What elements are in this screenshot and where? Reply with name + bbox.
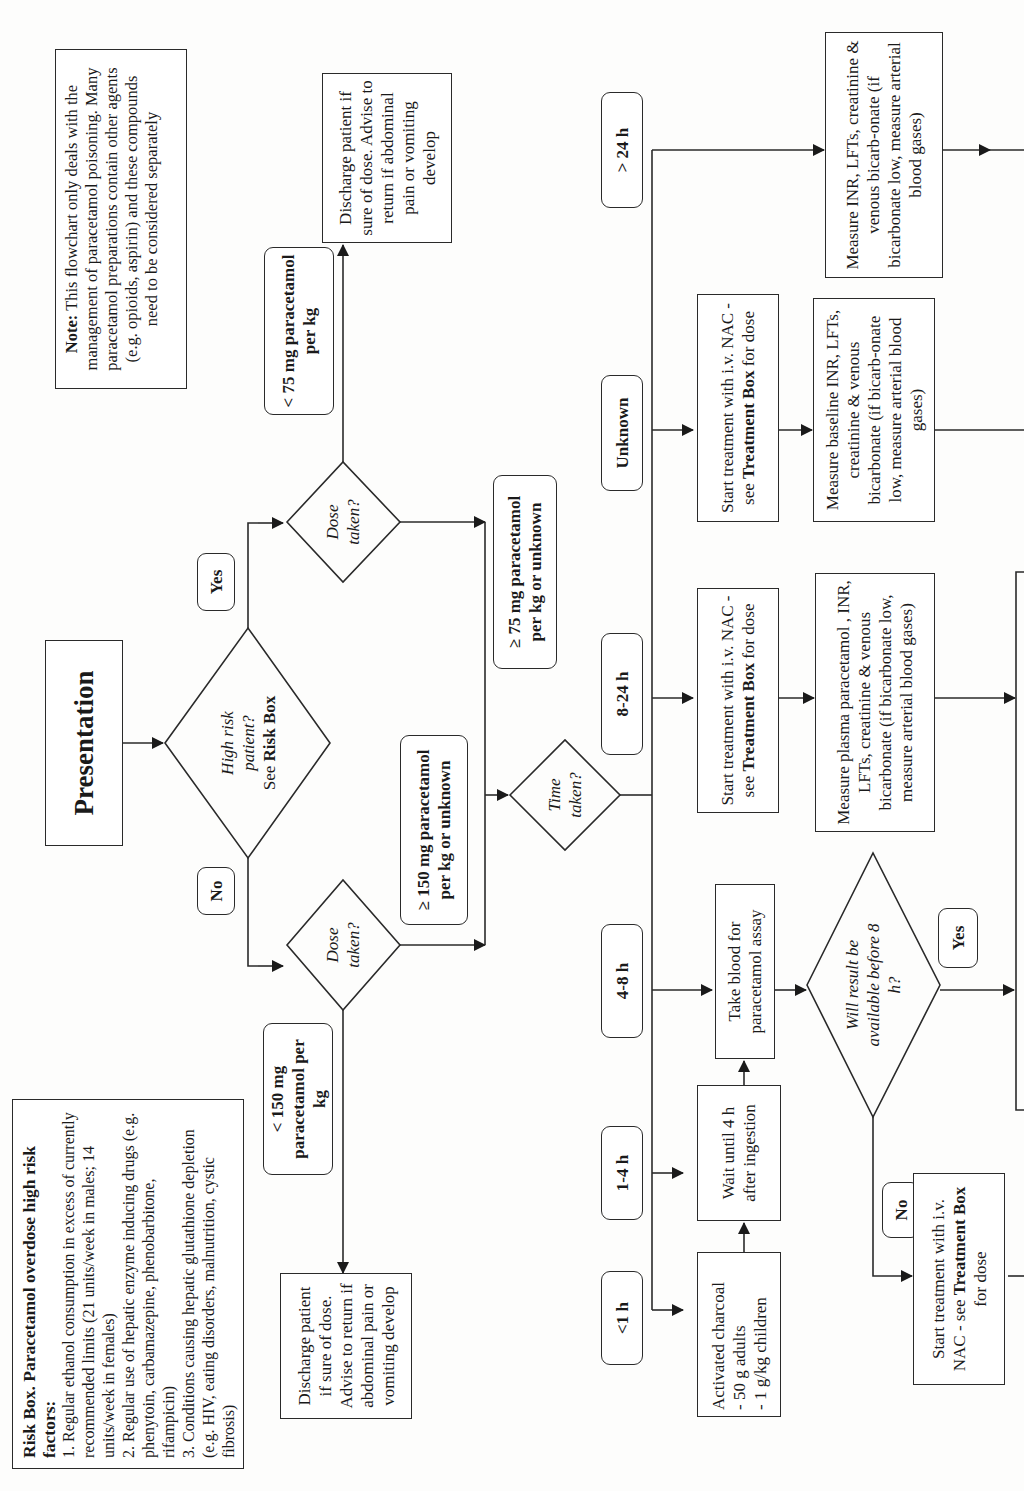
high-risk-line2: patient? bbox=[238, 715, 259, 771]
dose-taken-question-no-branch: Dose taken? bbox=[318, 905, 368, 985]
presentation-label: Presentation bbox=[74, 671, 95, 816]
note-label: Note: bbox=[62, 315, 81, 353]
dose-taken-question-yes-branch: Dose taken? bbox=[318, 482, 368, 562]
high-risk-line1: High risk bbox=[217, 711, 238, 775]
take-blood-box: Take blood for paracetamol assay bbox=[715, 884, 775, 1059]
time-gt24h-label: > 24 h bbox=[601, 92, 643, 208]
flowchart-page: Risk Box. Paracetamol overdose high risk… bbox=[0, 0, 1024, 1491]
high-risk-see: See Risk Box bbox=[259, 696, 280, 790]
measure-box-gt24h: Measure INR, LFTs, creatinine & venous b… bbox=[825, 32, 943, 278]
risk-box-title: Risk Box. Paracetamol overdose high risk… bbox=[19, 1110, 59, 1458]
risk-factor-1: 1. Regular ethanol consumption in excess… bbox=[59, 1110, 119, 1458]
measure-box-unknown: Measure baseline INR, LFTs, creatinine &… bbox=[813, 298, 935, 522]
charcoal-line3: - 1 g/kg children bbox=[750, 1297, 771, 1410]
dose-ge150-label: ≥ 150 mg paracetamol per kg or unknown bbox=[400, 735, 468, 925]
high-risk-no-label: No bbox=[197, 867, 235, 915]
risk-factor-2: 2. Regular use of hepatic enzyme inducin… bbox=[119, 1110, 179, 1458]
note-box: Note: This flowchart only deals with the… bbox=[55, 49, 187, 389]
time-4-8h-label: 4-8 h bbox=[601, 924, 643, 1038]
will-result-question: Will result be available before 8 h? bbox=[840, 915, 906, 1055]
dose-lt150-label: < 150 mg paracetamol per kg bbox=[263, 1023, 333, 1175]
time-lt1h-label: <1 h bbox=[601, 1271, 643, 1365]
measure-box-8-24h: Measure plasma paracetamol , INR, LFTs, … bbox=[815, 573, 935, 832]
presentation-box: Presentation bbox=[45, 640, 123, 846]
start-nac-box-no-result: Start treatment with i.v. NAC - see Trea… bbox=[913, 1173, 1005, 1385]
activated-charcoal-box: Activated charcoal - 50 g adults - 1 g/k… bbox=[697, 1252, 781, 1417]
result-yes-label: Yes bbox=[938, 908, 978, 968]
high-risk-yes-label: Yes bbox=[197, 553, 235, 611]
risk-box: Risk Box. Paracetamol overdose high risk… bbox=[12, 1099, 244, 1469]
start-nac-box-8-24h: Start treatment with i.v. NAC - see Trea… bbox=[697, 588, 779, 813]
start-nac-box-unknown: Start treatment with i.v. NAC - see Trea… bbox=[697, 294, 779, 522]
dose-ge75-label: ≥ 75 mg paracetamol per kg or unknown bbox=[493, 475, 557, 669]
time-unknown-label: Unknown bbox=[601, 375, 643, 491]
charcoal-line2: - 50 g adults bbox=[729, 1325, 750, 1410]
wait-4h-box: Wait until 4 h after ingestion bbox=[697, 1085, 781, 1221]
dose-lt75-label: < 75 mg paracetamol per kg bbox=[264, 247, 334, 415]
charcoal-line1: Activated charcoal bbox=[708, 1282, 729, 1410]
discharge-box-low-risk: Discharge patient if sure of dose. Advis… bbox=[280, 1273, 412, 1419]
high-risk-question: High risk patient? See Risk Box bbox=[200, 663, 296, 823]
discharge-box-high-risk: Discharge patient if sure of dose. Advis… bbox=[322, 73, 452, 243]
risk-factor-3: 3. Conditions causing hepatic glutathion… bbox=[179, 1110, 239, 1458]
time-1-4h-label: 1-4 h bbox=[601, 1126, 643, 1220]
time-taken-question: Time taken? bbox=[540, 755, 590, 835]
flowchart-canvas: Risk Box. Paracetamol overdose high risk… bbox=[0, 0, 1024, 1491]
time-8-24h-label: 8-24 h bbox=[601, 633, 643, 755]
